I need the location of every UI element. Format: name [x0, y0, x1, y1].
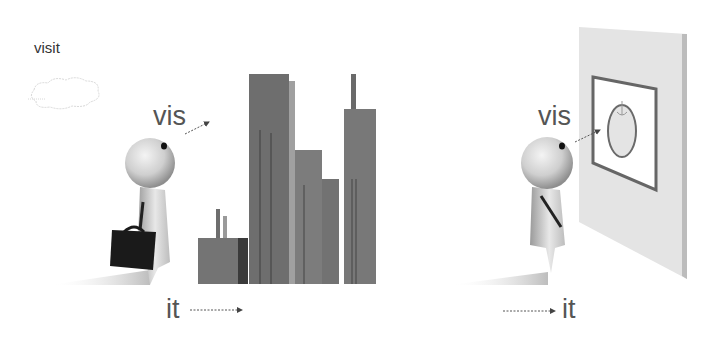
gaze-arrow-left: [185, 122, 209, 134]
word-vis-left: vis: [153, 103, 186, 130]
eye: [161, 143, 167, 150]
ground-shadow-right: [450, 272, 548, 285]
word-it-left: it: [166, 296, 180, 323]
eye: [559, 143, 565, 150]
word-vis-right: vis: [538, 103, 571, 130]
viewing-figure: [521, 137, 573, 273]
word-it-right: it: [562, 296, 576, 323]
head: [125, 138, 175, 188]
word-visit: visit: [34, 40, 60, 55]
illustration: [0, 0, 711, 349]
city-skyline: [198, 74, 376, 284]
cloud-icon: [28, 78, 99, 109]
ground-shadow-left: [50, 270, 150, 285]
head: [521, 137, 573, 189]
briefcase-icon: [110, 227, 156, 270]
walking-figure: [110, 138, 175, 285]
